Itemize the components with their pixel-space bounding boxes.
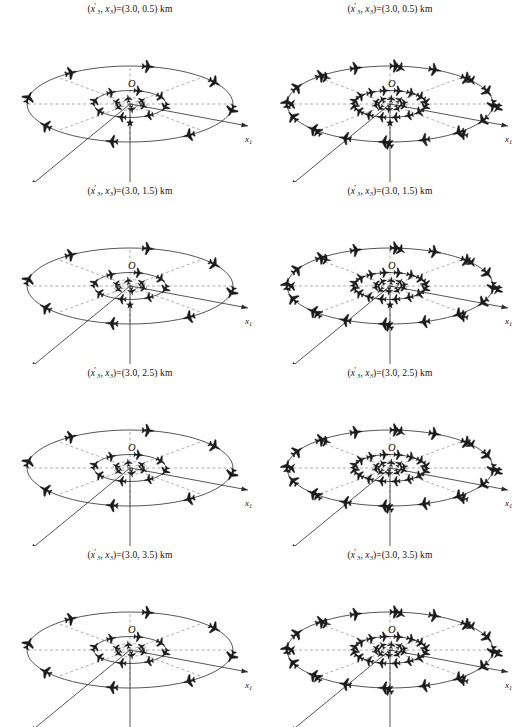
panel-title: (x′3, x3)=(3.0, 3.5) km (0, 550, 260, 560)
aircraft-icon (105, 681, 118, 694)
aircraft-icon (116, 476, 127, 487)
aircraft-icon (376, 294, 387, 305)
aircraft-icon (124, 458, 133, 467)
origin-label: O (128, 624, 136, 635)
aircraft-icon (206, 256, 223, 273)
aircraft-icon (417, 497, 431, 511)
axis-label-x1: x1 (504, 498, 512, 509)
axis-label-x1: x1 (244, 316, 252, 327)
aircraft-icon (116, 658, 127, 669)
coordinate-diagram: x1x2x3O (0, 378, 260, 546)
aircraft-icon (284, 108, 302, 126)
coordinate-diagram: x1x2x3O (260, 560, 520, 727)
aircraft-icon (366, 269, 378, 281)
aircraft-icon (105, 499, 118, 512)
aircraft-icon (116, 112, 127, 123)
aircraft-icon (64, 65, 79, 80)
aircraft-icon (338, 495, 352, 509)
aircraft-icon (385, 469, 393, 477)
panel-title: (x′3, x3)=(3.0, 3.5) km (260, 550, 520, 560)
aircraft-icon (338, 131, 352, 145)
aircraft-icon (385, 287, 393, 295)
aircraft-icon (428, 245, 442, 259)
origin-label: O (388, 624, 396, 635)
aircraft-icon (127, 287, 136, 296)
aircraft-icon (20, 89, 37, 106)
axes-group: x1x2x3 (25, 104, 252, 182)
aircraft-icon (403, 292, 415, 304)
coordinate-diagram: x1x2x3O (0, 14, 260, 182)
aircraft-icon (37, 481, 54, 498)
aircraft-icon (486, 281, 500, 295)
aircraft-icon (486, 99, 500, 113)
aircraft-icon (20, 635, 37, 652)
coordinate-diagram: x1x2x3O (260, 14, 520, 182)
aircraft-icon (417, 315, 431, 329)
aircraft-icon (376, 658, 387, 669)
figure-panel: (x′3, x3)=(3.0, 3.5) kmx1x2x3O (0, 546, 260, 727)
aircraft-icon (486, 645, 500, 659)
axes-group: x1x2x3 (285, 468, 512, 546)
aircraft-icon (124, 640, 133, 649)
axes-group: x1x2x3 (285, 104, 512, 182)
aircraft-icon (417, 679, 431, 693)
aircraft-icon (366, 87, 378, 99)
panel-title: (x′3, x3)=(3.0, 0.5) km (260, 4, 520, 14)
aircraft-icon (478, 265, 496, 283)
aircraft-icon (127, 651, 136, 660)
axis-label-x1: x1 (244, 498, 252, 509)
aircraft-icon (37, 663, 54, 680)
axis-label-x1: x1 (244, 680, 252, 691)
coordinate-diagram: x1x2x3O (260, 196, 520, 364)
outer-ring-aircraft (280, 242, 505, 333)
aircraft-icon (284, 290, 302, 308)
aircraft-icon (206, 74, 223, 91)
coordinate-diagram: x1x2x3O (260, 378, 520, 546)
aircraft-icon (206, 620, 223, 637)
aircraft-icon (158, 646, 172, 660)
aircraft-icon (181, 128, 196, 143)
aircraft-icon (136, 277, 147, 288)
aircraft-icon (143, 110, 155, 122)
aircraft-icon (136, 641, 147, 652)
aircraft-icon (338, 677, 352, 691)
aircraft-icon (390, 112, 400, 122)
aircraft-icon (106, 451, 118, 463)
aircraft-icon (284, 654, 302, 672)
aircraft-icon (158, 100, 172, 114)
aircraft-icon (106, 87, 118, 99)
aircraft-icon (349, 61, 363, 75)
axes-group: x1x2x3 (25, 650, 252, 727)
figure-panel: (x′3, x3)=(3.0, 0.5) kmx1x2x3O (0, 0, 260, 182)
aircraft-icon (142, 60, 155, 73)
aircraft-icon (158, 464, 172, 478)
axis-label-x1: x1 (244, 134, 252, 145)
aircraft-icon (88, 276, 102, 290)
panel-title: (x′3, x3)=(3.0, 1.5) km (260, 186, 520, 196)
origin-label: O (128, 442, 136, 453)
axes-group: x1x2x3 (285, 286, 512, 364)
panel-title: (x′3, x3)=(3.0, 1.5) km (0, 186, 260, 196)
aircraft-icon (403, 474, 415, 486)
aircraft-icon (390, 294, 400, 304)
aircraft-icon (387, 640, 395, 648)
aircraft-icon (181, 492, 196, 507)
origin-label: O (128, 78, 136, 89)
aircraft-icon (127, 105, 136, 114)
aircraft-icon (387, 458, 395, 466)
aircraft-icon (106, 269, 118, 281)
figure-panel: (x′3, x3)=(3.0, 0.5) kmx1x2x3O (260, 0, 520, 182)
aircraft-icon (366, 451, 378, 463)
figure-panel: (x′3, x3)=(3.0, 1.5) kmx1x2x3O (0, 182, 260, 364)
aircraft-icon (143, 474, 155, 486)
figure-panel: (x′3, x3)=(3.0, 2.5) kmx1x2x3O (260, 364, 520, 546)
outer-ring-aircraft (280, 60, 505, 151)
axes-group: x1x2x3 (25, 286, 252, 364)
aircraft-icon (387, 276, 395, 284)
aircraft-icon (428, 609, 442, 623)
panel-title: (x′3, x3)=(3.0, 2.5) km (0, 368, 260, 378)
origin-label: O (388, 442, 396, 453)
aircraft-icon (428, 63, 442, 77)
aircraft-icon (124, 94, 133, 103)
aircraft-icon (88, 640, 102, 654)
